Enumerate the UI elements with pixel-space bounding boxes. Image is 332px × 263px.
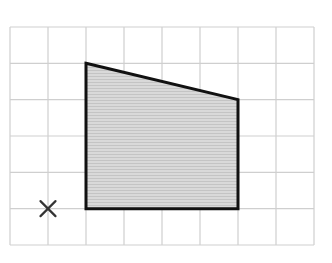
grid-diagram [0,0,332,263]
shaded-trapezium [86,63,238,208]
